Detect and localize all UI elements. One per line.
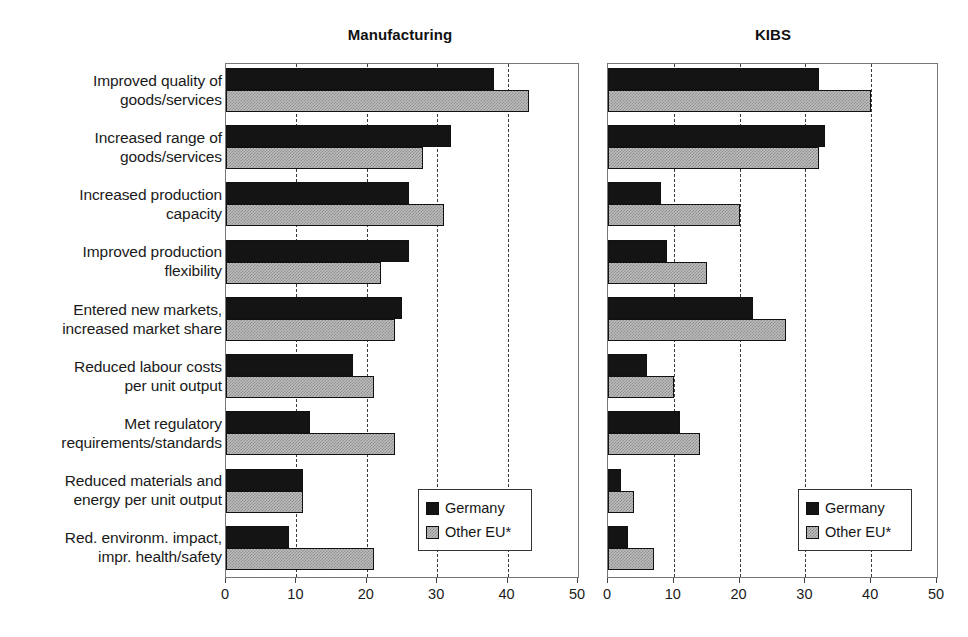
bar-other-eu <box>226 376 374 398</box>
category-label-line: requirements/standards <box>8 433 222 452</box>
axis-tick-label: 40 <box>499 586 515 602</box>
category-label-line: Improved quality of <box>8 71 222 90</box>
bar-germany <box>226 125 451 147</box>
category-label: Reduced materials andenergy per unit out… <box>8 471 222 509</box>
axis-tick <box>673 578 674 583</box>
legend-swatch-germany-icon <box>806 502 819 515</box>
bar-germany <box>608 469 621 491</box>
category-label-line: Improved production <box>8 242 222 261</box>
category-label-line: goods/services <box>8 147 222 166</box>
bar-germany <box>608 182 661 204</box>
bar-group <box>608 121 937 178</box>
bar-germany <box>608 526 628 548</box>
axis-tick-label: 0 <box>603 586 611 602</box>
category-label: Increased range ofgoods/services <box>8 128 222 166</box>
legend-swatch-germany-icon <box>426 502 439 515</box>
category-label-line: energy per unit output <box>8 490 222 509</box>
category-label-line: flexibility <box>8 261 222 280</box>
bar-group <box>226 121 578 178</box>
bar-group <box>226 293 578 350</box>
bar-group <box>226 350 578 407</box>
bar-germany <box>608 297 753 319</box>
axis-tick <box>936 578 937 583</box>
bar-group <box>608 407 937 464</box>
category-label: Reduced labour costsper unit output <box>8 357 222 395</box>
legend-label-germany: Germany <box>825 501 885 516</box>
legend-row-germany: Germany <box>806 496 902 520</box>
axis-tick-label: 40 <box>862 586 878 602</box>
category-label-line: Reduced materials and <box>8 471 222 490</box>
value-axis-kibs: 01020304050 <box>607 578 938 608</box>
bar-germany <box>226 526 289 548</box>
bar-other-eu <box>608 204 740 226</box>
legend-row-other-eu: Other EU* <box>806 520 902 544</box>
legend-manufacturing: Germany Other EU* <box>418 489 532 551</box>
bar-germany <box>608 68 819 90</box>
axis-tick-label: 50 <box>569 586 585 602</box>
axis-tick-label: 10 <box>665 586 681 602</box>
bar-germany <box>226 68 494 90</box>
bar-group <box>226 236 578 293</box>
category-label: Entered new markets,increased market sha… <box>8 300 222 338</box>
bar-other-eu <box>226 147 423 169</box>
bar-germany <box>226 411 310 433</box>
chart-figure: Manufacturing KIBS Improved quality ofgo… <box>0 0 968 637</box>
bar-other-eu <box>226 319 395 341</box>
value-axis-manufacturing: 01020304050 <box>225 578 579 608</box>
legend-label-other-eu: Other EU* <box>825 525 891 540</box>
bar-germany <box>226 240 409 262</box>
legend-row-germany: Germany <box>426 496 522 520</box>
bar-germany <box>608 240 667 262</box>
bar-germany <box>608 125 825 147</box>
category-label-line: Met regulatory <box>8 414 222 433</box>
panel-title-manufacturing: Manufacturing <box>300 26 500 43</box>
axis-tick <box>739 578 740 583</box>
bar-germany <box>608 411 680 433</box>
category-label-line: goods/services <box>8 90 222 109</box>
category-label: Red. environm. impact,impr. health/safet… <box>8 528 222 566</box>
bar-germany <box>226 182 409 204</box>
bar-other-eu <box>226 491 303 513</box>
category-label-line: Increased production <box>8 185 222 204</box>
axis-tick <box>366 578 367 583</box>
axis-tick <box>607 578 608 583</box>
bar-group <box>226 178 578 235</box>
bar-other-eu <box>608 376 674 398</box>
axis-tick-label: 0 <box>221 586 229 602</box>
category-label: Increased productioncapacity <box>8 185 222 223</box>
axis-tick-label: 30 <box>428 586 444 602</box>
axis-tick <box>225 578 226 583</box>
bar-other-eu <box>608 491 634 513</box>
legend-kibs: Germany Other EU* <box>798 489 912 551</box>
bar-germany <box>226 354 353 376</box>
bar-group <box>226 64 578 121</box>
axis-tick <box>870 578 871 583</box>
axis-tick-label: 30 <box>796 586 812 602</box>
category-label-line: increased market share <box>8 319 222 338</box>
axis-tick-label: 50 <box>928 586 944 602</box>
bar-group <box>608 236 937 293</box>
category-label-line: impr. health/safety <box>8 547 222 566</box>
bar-other-eu <box>226 548 374 570</box>
bar-germany <box>226 469 303 491</box>
category-label: Improved quality ofgoods/services <box>8 71 222 109</box>
category-label-line: Increased range of <box>8 128 222 147</box>
bar-other-eu <box>226 262 381 284</box>
category-label: Improved productionflexibility <box>8 242 222 280</box>
bar-group <box>608 293 937 350</box>
axis-tick-label: 20 <box>731 586 747 602</box>
axis-tick <box>436 578 437 583</box>
panel-title-kibs: KIBS <box>688 26 858 43</box>
category-label-line: Entered new markets, <box>8 300 222 319</box>
bar-other-eu <box>226 433 395 455</box>
axis-tick <box>804 578 805 583</box>
legend-swatch-other-eu-icon <box>806 526 819 539</box>
legend-row-other-eu: Other EU* <box>426 520 522 544</box>
bar-other-eu <box>608 90 871 112</box>
bar-group <box>608 178 937 235</box>
axis-tick <box>577 578 578 583</box>
bar-other-eu <box>608 262 707 284</box>
category-label-line: Red. environm. impact, <box>8 528 222 547</box>
axis-tick <box>507 578 508 583</box>
bar-germany <box>226 297 402 319</box>
